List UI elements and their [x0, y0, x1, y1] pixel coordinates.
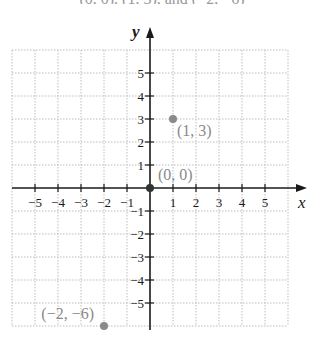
x-tick-label: −2	[97, 195, 111, 210]
y-tick-label: 2	[138, 135, 145, 150]
x-tick-label: 3	[216, 195, 223, 210]
data-point-label: (0, 0)	[158, 166, 193, 184]
y-tick-label: −1	[130, 204, 144, 219]
y-tick-label: 1	[138, 158, 145, 173]
x-tick-label: 1	[170, 195, 177, 210]
y-axis-label: y	[130, 22, 140, 41]
data-point-label: (−2, −6)	[41, 305, 94, 323]
data-point	[146, 184, 154, 192]
x-tick-label: −4	[51, 195, 65, 210]
data-point	[169, 115, 177, 123]
coordinate-plane: xy −5−4−3−2−112345−5−4−3−2−112345 (0, 0)…	[0, 0, 324, 339]
y-tick-label: −3	[130, 250, 144, 265]
y-tick-label: 4	[138, 89, 145, 104]
x-tick-label: 2	[193, 195, 200, 210]
y-tick-label: 3	[138, 112, 145, 127]
data-points: (0, 0)(1, 3)(−2, −6)	[41, 115, 211, 330]
y-axis-arrow-icon	[146, 27, 154, 38]
y-tick-label: 5	[138, 66, 145, 81]
x-axis-arrow-icon	[296, 184, 307, 192]
x-tick-label: −5	[28, 195, 42, 210]
data-point	[100, 322, 108, 330]
x-tick-label: −3	[74, 195, 88, 210]
x-tick-label: 4	[239, 195, 246, 210]
y-tick-label: −5	[130, 296, 144, 311]
data-point-label: (1, 3)	[177, 122, 212, 140]
x-tick-label: 5	[262, 195, 269, 210]
y-tick-label: −4	[130, 273, 144, 288]
y-tick-label: −2	[130, 227, 144, 242]
x-axis-label: x	[297, 193, 306, 212]
